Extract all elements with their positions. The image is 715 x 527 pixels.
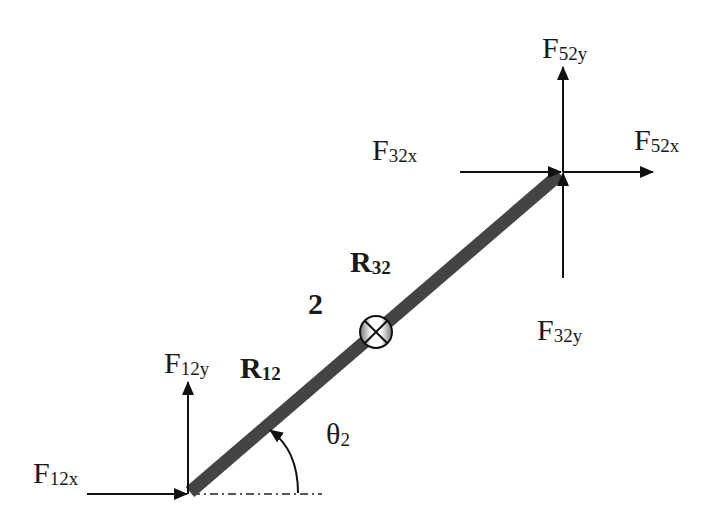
label-f12y: F12y — [164, 346, 210, 379]
label-f52y: F52y — [542, 31, 588, 64]
label-link-number: 2 — [308, 287, 323, 320]
label-f32y: F32y — [537, 313, 583, 346]
angle-arc — [270, 430, 298, 493]
label-theta2: θ2 — [326, 417, 350, 450]
label-f52x: F52x — [634, 123, 680, 156]
label-r12: R12 — [240, 351, 281, 384]
label-r32: R32 — [350, 245, 391, 278]
center-of-mass-icon — [360, 316, 392, 348]
free-body-diagram: F52y F52x F32x F32y F12y F12x R32 R12 2 … — [0, 0, 715, 527]
label-f32x: F32x — [372, 133, 418, 166]
label-f12x: F12x — [33, 456, 79, 489]
